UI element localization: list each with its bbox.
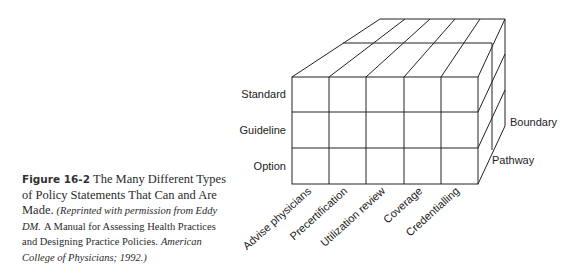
front-face xyxy=(292,77,478,184)
row-label-standard: Standard xyxy=(241,88,286,100)
row-label-guideline: Guideline xyxy=(240,124,286,136)
column-label-utilization-review: Utilization review xyxy=(318,185,387,249)
depth-label-boundary: Boundary xyxy=(510,116,558,128)
cube-lines xyxy=(292,19,505,184)
depth-label-pathway: Pathway xyxy=(492,154,535,166)
policy-cube-diagram: Standard Guideline Option Boundary Pathw… xyxy=(0,0,578,274)
row-label-option: Option xyxy=(254,160,286,172)
